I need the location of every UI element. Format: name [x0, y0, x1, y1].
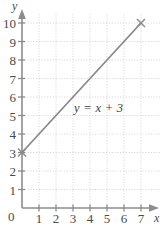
x-tick-label-4: 4	[87, 212, 94, 225]
y-axis-label: y	[12, 0, 17, 12]
x-tick-label-1: 1	[36, 212, 43, 225]
y-tick-label-6: 6	[10, 91, 17, 104]
y-tick-label-9: 9	[10, 35, 17, 48]
data-line-series-1	[22, 23, 141, 153]
y-axis-arrow-icon	[18, 9, 26, 19]
y-tick-label-10: 10	[3, 17, 16, 30]
graph-canvas: 10 9 8 7 6 5 4 3 2 1 0 1 2 3 4 5 6 7 y x…	[0, 0, 164, 230]
y-tick-label-5: 5	[10, 109, 17, 122]
y-tick-label-4: 4	[10, 128, 17, 141]
x-tick-label-7: 7	[138, 212, 145, 225]
origin-label-zero: 0	[8, 210, 15, 223]
y-tick-label-8: 8	[10, 54, 17, 67]
x-tick-label-5: 5	[104, 212, 111, 225]
equation-annotation: y = x + 3	[74, 101, 123, 116]
x-tick-label-3: 3	[70, 212, 77, 225]
y-tick-label-3: 3	[10, 146, 17, 159]
y-tick-label-2: 2	[10, 165, 17, 178]
y-tick-label-1: 1	[10, 183, 17, 196]
y-tick-label-7: 7	[10, 72, 17, 85]
x-tick-label-6: 6	[121, 212, 128, 225]
x-axis-label: x	[154, 212, 159, 224]
x-tick-label-2: 2	[53, 212, 60, 225]
